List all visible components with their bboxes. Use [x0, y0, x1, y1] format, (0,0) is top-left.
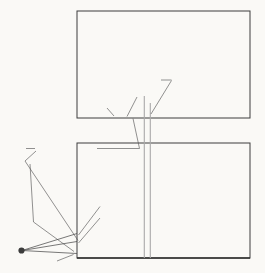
parallel-leader-to-b-ray	[25, 151, 78, 241]
gap-construction-diagonal	[133, 119, 140, 149]
bp-leader-line	[127, 97, 137, 117]
figure-canvas	[0, 0, 265, 273]
parallel-leader-to-a-ray	[30, 164, 74, 252]
ray-p-to-a	[22, 251, 77, 254]
top-chart-border	[77, 11, 250, 118]
ap-leader-line	[107, 108, 114, 116]
ray-p-to-b	[22, 242, 77, 251]
pole-point-marker	[18, 247, 24, 253]
pole-rays	[22, 234, 77, 254]
bottom-chart-border	[77, 143, 250, 258]
leader-lines	[25, 80, 172, 261]
cp-leader-line	[151, 81, 172, 115]
graphical-calculus-figure	[0, 0, 265, 273]
a-leader-line	[57, 255, 74, 262]
